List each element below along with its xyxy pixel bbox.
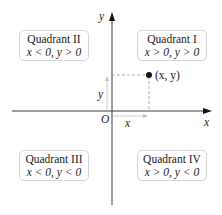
x-axis-arrowhead-icon [203,108,212,114]
point-marker-icon [146,72,152,78]
quadrant-iii-box: Quadrant III x < 0, y < 0 [19,150,89,181]
coordinate-plane-diagram: y x O (x, y) y x Quadrant II x < 0, y > … [0,0,222,215]
origin-label: O [101,113,109,125]
quadrant-i-title: Quadrant I [143,33,201,46]
x-dimension-arrowhead-icon [143,114,148,118]
y-axis-arrowhead-icon [109,12,115,21]
y-axis-label: y [99,10,104,22]
x-component-label: x [125,117,130,129]
point-coordinate-label: (x, y) [155,69,180,81]
quadrant-iii-title: Quadrant III [25,153,83,166]
y-component-label: y [98,88,103,100]
quadrant-iii-condition: x < 0, y < 0 [25,166,83,179]
quadrant-ii-condition: x < 0, y > 0 [25,46,83,59]
quadrant-iv-condition: x > 0, y < 0 [143,166,201,179]
quadrant-iv-title: Quadrant IV [143,153,201,166]
quadrant-ii-box: Quadrant II x < 0, y > 0 [19,30,89,61]
quadrant-i-condition: x > 0, y > 0 [143,46,201,59]
x-axis-label: x [204,116,209,128]
quadrant-ii-title: Quadrant II [25,33,83,46]
quadrant-iv-box: Quadrant IV x > 0, y < 0 [137,150,207,181]
y-dimension-arrowhead-icon [105,76,109,81]
quadrant-i-box: Quadrant I x > 0, y > 0 [137,30,207,61]
